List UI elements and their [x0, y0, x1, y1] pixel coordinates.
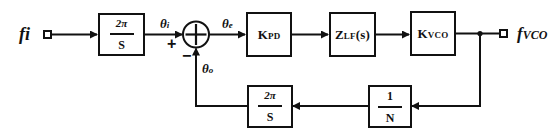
loop-filter-label: ZLF(s): [335, 27, 370, 43]
plus-sign: +: [167, 36, 176, 52]
theta-i-label: θi: [160, 17, 169, 30]
integrator-denominator: S: [118, 39, 125, 51]
fraction-bar: [110, 33, 134, 35]
minus-sign: −: [182, 48, 191, 64]
theta-o-label: θo: [202, 62, 213, 75]
fraction-bar: [378, 106, 402, 108]
output-label: fVCO: [517, 25, 547, 42]
phase-detector-block: KPD: [246, 12, 292, 57]
loop-filter-block: ZLF(s): [329, 12, 376, 57]
theta-e-label: θe: [222, 17, 233, 30]
vco-block: KVCO: [410, 11, 456, 56]
output-terminal: [500, 30, 507, 37]
integrator-block-forward: 2π S: [98, 13, 145, 56]
integrator-denominator: S: [267, 111, 274, 123]
input-terminal: [44, 31, 51, 38]
divider-denominator: N: [386, 112, 395, 124]
integrator-block-feedback: 2π S: [247, 85, 293, 128]
input-label: fi: [19, 25, 30, 43]
integrator-numerator: 2π: [116, 18, 128, 29]
vco-label: KVCO: [418, 26, 449, 42]
phase-detector-label: KPD: [258, 27, 281, 43]
divider-block: 1 N: [368, 85, 412, 128]
divider-numerator: 1: [387, 90, 393, 102]
integrator-numerator: 2π: [264, 90, 276, 101]
fraction-bar: [258, 105, 282, 107]
